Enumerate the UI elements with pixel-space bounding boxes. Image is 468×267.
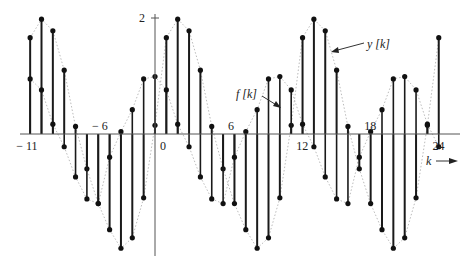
- sample-dot: [379, 107, 384, 112]
- sample-dot: [402, 235, 407, 240]
- sample-dot: [425, 122, 430, 127]
- sample-dot: [209, 196, 214, 201]
- sample-dot: [243, 129, 248, 134]
- sample-dot: [73, 174, 78, 179]
- sample-dot: [334, 68, 339, 73]
- sample-dot: [141, 195, 146, 200]
- x-tick-label: 24: [432, 139, 444, 153]
- sample-dot: [107, 155, 112, 160]
- x-tick-label: − 11: [16, 139, 37, 153]
- sample-dot: [413, 87, 418, 92]
- stem-plot: 2 − 11− 606121824 f [k] y [k] k: [0, 0, 468, 267]
- y-tick-label-2: 2: [139, 11, 145, 25]
- k-arrowhead-icon: [449, 158, 458, 164]
- sample-dot: [345, 124, 350, 129]
- sample-dot: [357, 155, 362, 160]
- k-axis-label: k: [426, 154, 432, 168]
- sample-dot: [323, 174, 328, 179]
- sample-dot: [243, 227, 248, 232]
- sample-dot: [118, 129, 123, 134]
- sample-dot: [436, 35, 441, 40]
- sample-dot: [391, 76, 396, 81]
- sample-dot: [368, 201, 373, 206]
- sample-dot: [186, 144, 191, 149]
- sample-dot: [164, 87, 169, 92]
- sample-dot: [84, 196, 89, 201]
- x-tick-label: 18: [364, 119, 376, 133]
- sample-dot: [118, 246, 123, 251]
- sample-dot: [39, 17, 44, 22]
- sample-dot: [266, 235, 271, 240]
- sample-dot: [186, 28, 191, 33]
- x-tick-label: − 6: [92, 119, 108, 133]
- sample-dot: [402, 74, 407, 79]
- sample-dot: [413, 195, 418, 200]
- sample-dot: [28, 35, 33, 40]
- sample-dot: [141, 76, 146, 81]
- y-arrowhead-icon: [331, 47, 339, 53]
- sample-dot: [266, 76, 271, 81]
- sample-dot: [311, 144, 316, 149]
- sample-dot: [232, 155, 237, 160]
- sample-dot: [221, 201, 226, 206]
- sample-dot: [300, 122, 305, 127]
- sample-dot: [277, 74, 282, 79]
- sample-dot: [39, 87, 44, 92]
- sample-dot: [73, 124, 78, 129]
- sample-dot: [107, 227, 112, 232]
- sample-dot: [50, 28, 55, 33]
- sample-dot: [130, 107, 135, 112]
- f-label: f [k]: [236, 87, 257, 101]
- sample-dot: [345, 201, 350, 206]
- sample-dot: [334, 196, 339, 201]
- sample-dot: [130, 235, 135, 240]
- sample-dot: [255, 246, 260, 251]
- sample-dot: [357, 166, 362, 171]
- sample-dot: [289, 87, 294, 92]
- sample-dot: [255, 107, 260, 112]
- sample-dot: [175, 122, 180, 127]
- y-label: y [k]: [366, 37, 390, 51]
- sample-dot: [311, 17, 316, 22]
- x-tick-label: 0: [160, 139, 166, 153]
- sample-dot: [96, 201, 101, 206]
- sample-dot: [164, 35, 169, 40]
- sample-dot: [300, 35, 305, 40]
- y-arrow: [334, 43, 364, 51]
- sample-dot: [209, 124, 214, 129]
- sample-dot: [391, 246, 396, 251]
- sample-dot: [62, 68, 67, 73]
- sample-dot: [323, 28, 328, 33]
- sample-dot: [198, 68, 203, 73]
- sample-dot: [62, 144, 67, 149]
- sample-dot: [277, 195, 282, 200]
- x-tick-label: 6: [228, 119, 234, 133]
- sample-dot: [379, 227, 384, 232]
- sample-dot: [198, 174, 203, 179]
- sample-dot: [50, 122, 55, 127]
- sample-dot: [175, 17, 180, 22]
- x-tick-label: 12: [296, 139, 308, 153]
- x-tick-labels: − 11− 606121824: [16, 119, 444, 153]
- sample-dot: [28, 76, 33, 81]
- sample-dot: [232, 201, 237, 206]
